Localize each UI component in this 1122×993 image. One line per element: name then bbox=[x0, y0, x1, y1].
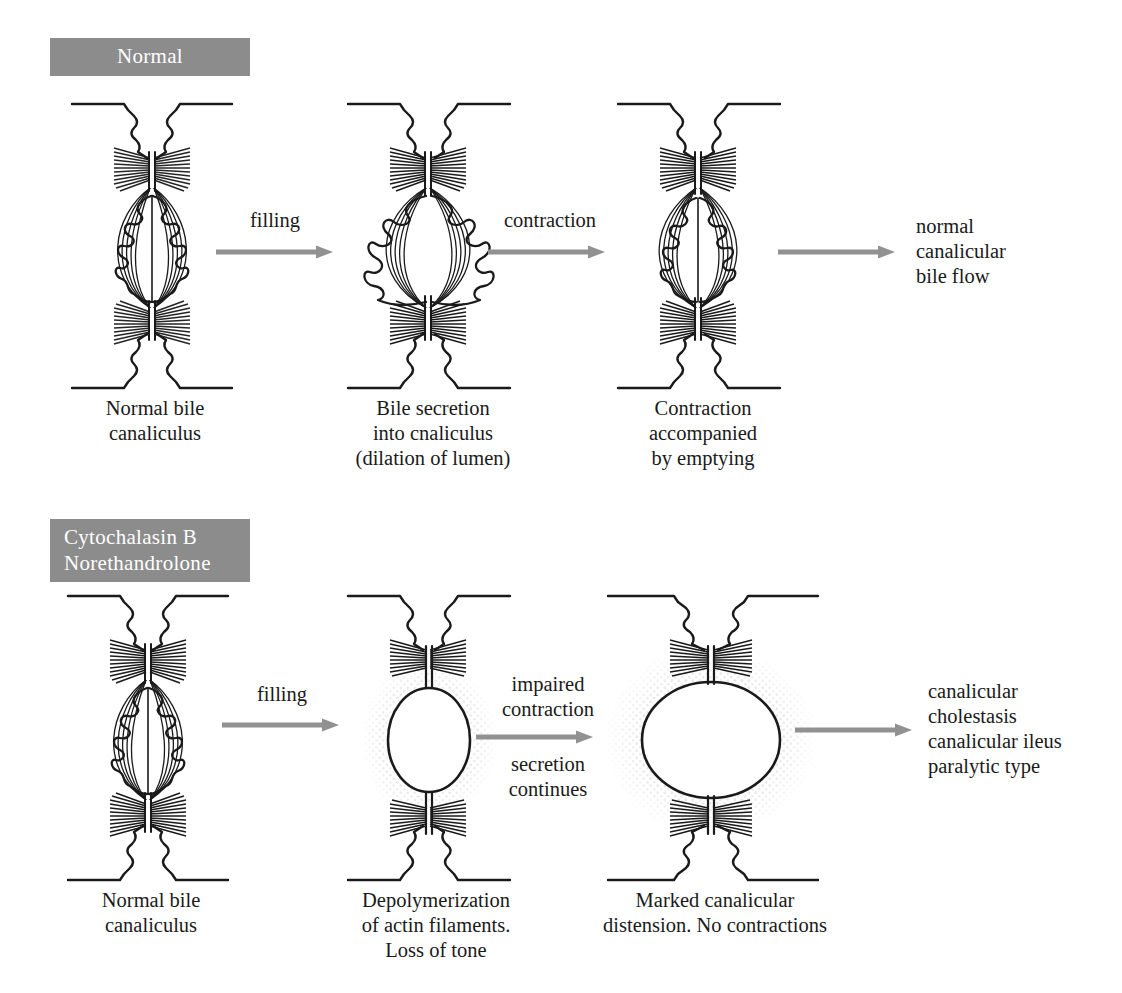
diagram-canvas: Normal bbox=[0, 0, 1122, 993]
arrow-label-normal-1: filling bbox=[215, 208, 335, 233]
arrow-normal-filling bbox=[216, 245, 334, 259]
row-header-treated-line-1: Cytochalasin B bbox=[64, 524, 236, 550]
arrow-normal-contraction bbox=[488, 245, 606, 259]
figure-treated-distended bbox=[600, 588, 826, 888]
caption-treated-3: Marked canalicular distension. No contra… bbox=[580, 888, 850, 938]
row-header-normal: Normal bbox=[50, 38, 250, 76]
arrow-treated-filling bbox=[222, 718, 340, 732]
row-header-treated-line-2: Norethandrolone bbox=[64, 550, 236, 576]
figure-normal-contracted bbox=[606, 96, 792, 396]
outcome-normal: normal canalicular bile flow bbox=[916, 214, 1116, 289]
arrow-normal-outcome bbox=[778, 245, 896, 259]
caption-normal-1: Normal bile canaliculus bbox=[40, 396, 270, 446]
arrow-treated-impaired bbox=[476, 730, 594, 744]
arrow-treated-outcome bbox=[795, 723, 913, 737]
row-header-normal-line-1: Normal bbox=[117, 44, 183, 68]
figure-treated-resting bbox=[58, 588, 238, 888]
figure-normal-resting bbox=[62, 96, 242, 396]
row-header-treated: Cytochalasin B Norethandrolone bbox=[50, 519, 250, 582]
arrow-label-treated-1: filling bbox=[222, 682, 342, 707]
caption-normal-2: Bile secretion into cnaliculus (dilation… bbox=[318, 396, 548, 471]
caption-normal-3: Contraction accompanied by emptying bbox=[588, 396, 818, 471]
caption-treated-2: Depolymerization of actin filaments. Los… bbox=[316, 888, 556, 963]
caption-treated-1: Normal bile canaliculus bbox=[36, 888, 266, 938]
outcome-treated: canalicular cholestasis canalicular ileu… bbox=[928, 679, 1122, 779]
